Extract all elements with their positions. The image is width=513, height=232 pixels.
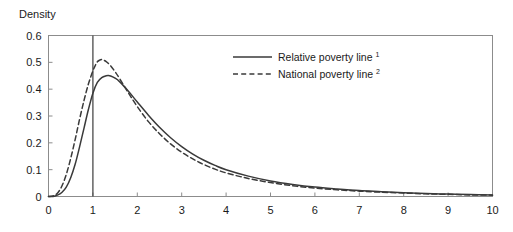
svg-text:0.3: 0.3 — [26, 110, 41, 122]
svg-text:10: 10 — [486, 204, 498, 216]
chart-legend[interactable]: Relative poverty line 1National poverty … — [233, 51, 380, 80]
svg-text:0.6: 0.6 — [26, 30, 41, 42]
svg-text:5: 5 — [267, 204, 273, 216]
svg-text:0: 0 — [45, 204, 51, 216]
curve-2 — [49, 60, 493, 197]
density-curves — [49, 60, 493, 197]
legend-label-1: Relative poverty line 1 — [278, 51, 379, 63]
plot-area: 01234567891000.10.20.30.40.50.6 Relative… — [0, 0, 513, 232]
plot-frame — [49, 36, 493, 197]
svg-text:2: 2 — [134, 204, 140, 216]
svg-text:0.2: 0.2 — [26, 137, 41, 149]
svg-text:0.1: 0.1 — [26, 164, 41, 176]
svg-text:0.4: 0.4 — [26, 83, 41, 95]
legend-label-2: National poverty line 2 — [278, 68, 380, 80]
svg-text:0: 0 — [35, 191, 41, 203]
svg-text:4: 4 — [223, 204, 229, 216]
svg-text:0.5: 0.5 — [26, 56, 41, 68]
svg-text:8: 8 — [401, 204, 407, 216]
svg-text:9: 9 — [445, 204, 451, 216]
svg-text:1: 1 — [90, 204, 96, 216]
svg-text:6: 6 — [312, 204, 318, 216]
svg-text:3: 3 — [179, 204, 185, 216]
curve-1 — [49, 75, 493, 196]
density-chart: Density 01234567891000.10.20.30.40.50.6 … — [0, 0, 513, 232]
svg-text:7: 7 — [356, 204, 362, 216]
